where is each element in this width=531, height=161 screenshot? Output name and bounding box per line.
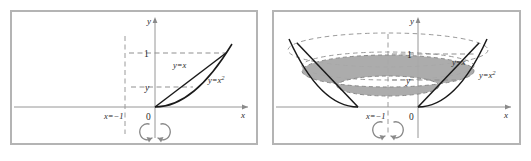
axis-of-rotation-label: x=−1 [103, 111, 124, 121]
solid-panel: x y x=−1 0 1 [272, 10, 521, 145]
tick-label-one: 1 [144, 49, 149, 59]
curve-label-y-equals-x-squared: y=x2 [207, 74, 225, 86]
origin-label: 0 [409, 112, 414, 122]
tick-label-y: y [405, 76, 411, 86]
x-axis [14, 105, 248, 110]
solid-panel-canvas: x y x=−1 0 1 [274, 12, 519, 143]
y-axis-label: y [409, 16, 414, 26]
axis-of-rotation-label: x=−1 [365, 111, 386, 121]
region-panel: x y x=−1 1 y 0 y=x y=x2 [10, 10, 258, 145]
x-axis [276, 105, 511, 110]
curve-label-y-equals-x: y=x [172, 60, 187, 70]
curve-label-y-equals-x: y=x [451, 57, 466, 67]
tick-label-y: y [144, 83, 150, 93]
y-axis [153, 17, 158, 138]
origin-label: 0 [146, 112, 151, 122]
y-axis-label: y [146, 16, 151, 26]
figure-container: x y x=−1 1 y 0 y=x y=x2 [0, 0, 531, 161]
curve-label-y-equals-x-squared: y=x2 [478, 69, 496, 81]
region-panel-canvas: x y x=−1 1 y 0 y=x y=x2 [12, 12, 256, 143]
tick-label-one: 1 [407, 50, 412, 60]
x-axis-label: x [503, 110, 508, 120]
x-axis-label: x [240, 110, 245, 120]
